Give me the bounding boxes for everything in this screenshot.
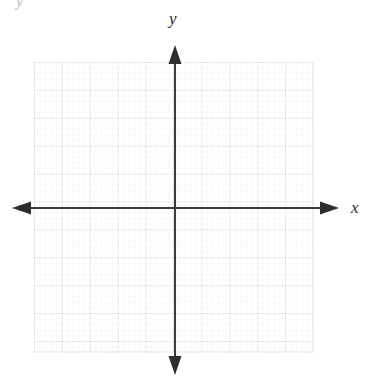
x-axis-label: x — [351, 199, 359, 216]
coordinate-plane-figure: y — [0, 0, 379, 383]
x-axis-right-arrowhead — [320, 202, 339, 215]
graph-canvas — [0, 0, 379, 383]
y-axis-down-arrowhead — [169, 356, 182, 375]
y-axis-label: y — [169, 10, 177, 27]
x-axis-left-arrowhead — [12, 202, 31, 215]
y-axis-up-arrowhead — [169, 45, 182, 64]
